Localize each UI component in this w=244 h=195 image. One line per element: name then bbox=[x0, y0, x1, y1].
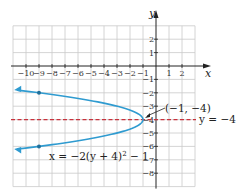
y-tick-label: −3 bbox=[142, 102, 154, 111]
x-axis-label: x bbox=[205, 67, 212, 80]
point-marker bbox=[37, 91, 41, 95]
x-tick-label: −6 bbox=[72, 69, 84, 78]
x-tick-label: −10 bbox=[18, 69, 35, 78]
x-tick-label: −7 bbox=[59, 69, 71, 78]
x-tick-label: −9 bbox=[33, 69, 45, 78]
equation-prefix: x = −2(y + 4) bbox=[49, 150, 122, 162]
y-tick-label: −5 bbox=[142, 129, 154, 138]
y-tick-label: −8 bbox=[142, 169, 154, 178]
x-tick-label: −4 bbox=[98, 69, 110, 78]
x-tick-label: −5 bbox=[85, 69, 97, 78]
equation-label: x = −2(y + 4)2 − 1 bbox=[49, 150, 149, 162]
x-tick-label: −3 bbox=[111, 69, 123, 78]
y-axis-label: y bbox=[148, 7, 156, 20]
y-tick-label: −1 bbox=[142, 75, 154, 84]
y-tick-label: 1 bbox=[149, 49, 154, 58]
x-tick-label: −8 bbox=[46, 69, 58, 78]
point-marker bbox=[37, 144, 41, 148]
curve-arrowhead bbox=[14, 86, 21, 92]
equation-suffix: − 1 bbox=[127, 150, 149, 162]
y-tick-label: −2 bbox=[142, 89, 154, 98]
x-tick-label: 2 bbox=[179, 69, 184, 78]
parabola-chart: −10−9−8−7−6−5−4−3−2−11221−1−2−3−4−5−6−7−… bbox=[0, 0, 244, 195]
x-tick-label: −2 bbox=[124, 69, 136, 78]
y-tick-label: 2 bbox=[149, 35, 154, 44]
curve-arrowhead bbox=[14, 147, 21, 153]
symmetry-label: y = −4 bbox=[198, 113, 236, 125]
x-tick-label: 1 bbox=[166, 69, 171, 78]
